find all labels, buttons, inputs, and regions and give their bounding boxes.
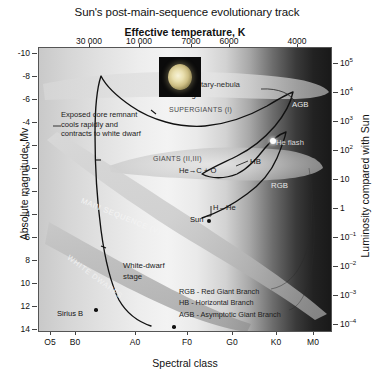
track-direction-marker [151,110,156,114]
tick-label-mag-8: 8 [0,255,30,265]
tick-label-temp-30000: 30 000 [76,36,102,46]
tick-mark-lum [333,179,338,180]
tick-mark-mag [32,99,37,100]
tick-mark-lum [333,324,338,325]
tick-label-mag-0: 0 [0,163,30,173]
tick-mark-mag [32,53,37,54]
tick-mark-mag [32,122,37,123]
tick-label-mag--10: -10 [0,48,30,58]
tick-label-mag--4: -4 [0,117,30,127]
tick-label-temp-7000: 7000 [182,36,201,46]
tick-label-mag-2: 2 [0,186,30,196]
tick-mark-lum [333,237,338,238]
right-axis-title: Luminosity compared with Sun [359,76,371,296]
tick-label-mag--2: -2 [0,140,30,150]
tick-label-mag--8: -8 [0,71,30,81]
label-sun: Sun [190,215,204,225]
legend-item-agb: AGB - Asymptotic Giant Branch [179,309,281,320]
label-asymptotic-giant-branch: AGB [292,100,308,110]
tick-label-spectral-a0: A0 [130,337,140,347]
label-exposed-core-line1: Exposed core remnant [61,110,141,120]
tick-label-spectral-g0: G0 [226,337,237,347]
label-star-sirius-b: Sirius B [57,309,83,319]
tick-label-mag-6: 6 [0,232,30,242]
tick-label-temp-10000: 10 000 [126,36,152,46]
label-red-giant-branch: RGB [271,181,288,191]
tick-mark-lum [333,150,338,151]
tick-label-spectral-f0: F0 [182,337,192,347]
label-helium-burning: He→C + O [179,166,216,176]
tick-label-lum-1e2: 102 [340,145,353,155]
tick-label-mag-10: 10 [0,278,30,288]
tick-label-lum-1e-3: 10–3 [340,290,356,300]
tick-mark-lum [333,121,338,122]
tick-label-lum-10: 10 [340,174,349,184]
tick-label-temp-6000: 6000 [220,36,239,46]
label-exposed-core-line2: cools rapidly and [61,120,141,130]
legend-item-rgb: RGB - Red Giant Branch [179,286,281,297]
tick-label-temp-4000: 4000 [288,36,307,46]
tick-mark-mag [32,214,37,215]
tick-label-mag-4: 4 [0,209,30,219]
nebula-disk [168,64,192,90]
tick-mark-mag [32,76,37,77]
label-star-procyon-b: Procyon B [155,331,190,332]
legend: RGB - Red Giant Branch HB - Horizontal B… [179,286,281,320]
label-exposed-core-line3: contracts to white dwarf [61,129,141,139]
marker-procyon-b [172,325,176,329]
page-title: Sun's post-main-sequence evolutionary tr… [0,6,374,18]
tick-mark-mag [32,329,37,330]
tick-label-spectral-m0: M0 [307,337,319,347]
plot-area: Planetary-nebula stage SUPERGIANTS (I) E… [38,47,332,332]
legend-item-hb: HB - Horizontal Branch [179,297,281,308]
tick-label-lum-1e3: 103 [340,116,353,126]
tick-label-spectral-o5: O5 [44,337,55,347]
tick-mark-lum [333,63,338,64]
hr-diagram-figure: Sun's post-main-sequence evolutionary tr… [0,0,374,379]
marker-helium-flash [270,138,276,144]
tick-mark-mag [32,237,37,238]
marker-sirius-b [94,308,98,312]
tick-mark-lum [333,92,338,93]
label-giants-region: GIANTS (II,III) [153,155,202,164]
marker-sun [207,219,211,223]
tick-mark-mag [32,168,37,169]
tick-mark-mag [32,260,37,261]
tick-mark-mag [32,191,37,192]
label-horizontal-branch: HB [250,157,261,167]
label-white-dwarf-line1: White-dwarf [123,260,165,271]
tick-label-mag--6: -6 [0,94,30,104]
tick-label-spectral-k0: K0 [271,337,281,347]
label-white-dwarf-line2: stage [123,271,165,282]
tick-label-lum-1e-2: 10–2 [340,261,356,271]
tick-mark-lum [333,295,338,296]
tick-label-mag-12: 12 [0,301,30,311]
tick-label-lum-1e5: 105 [340,58,353,68]
tick-mark-mag [32,283,37,284]
tick-label-lum-1: 1 [340,203,345,213]
tick-mark-lum [333,266,338,267]
planetary-nebula-image [159,57,201,97]
tick-label-spectral-b0: B0 [70,337,80,347]
label-hydrogen-burning: H→He [213,203,236,213]
tick-label-lum-1e-4: 10–4 [340,319,356,329]
tick-label-mag-14: 14 [0,324,30,334]
tick-label-lum-1e-1: 10–1 [340,232,356,242]
tick-mark-mag [32,306,37,307]
label-helium-flash: He flash [276,138,304,148]
bottom-axis-title: Spectral class [38,357,332,369]
tick-label-lum-1e4: 104 [340,87,353,97]
tick-mark-lum [333,208,338,209]
label-white-dwarf-stage: White-dwarf stage [123,260,165,283]
label-supergiants-region: SUPERGIANTS (I) [169,106,232,115]
tick-mark-mag [32,145,37,146]
label-exposed-core-remnant: Exposed core remnant cools rapidly and c… [61,110,141,139]
